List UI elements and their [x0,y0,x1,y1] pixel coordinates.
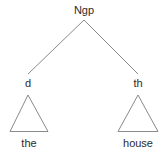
branch-root-to-right [84,20,138,74]
node-label-left-determiner: d [25,77,31,89]
node-label-right-head: th [133,77,142,89]
syntax-tree-figure: Ngp d th the house [0,0,166,159]
leaf-label-the: the [21,137,36,149]
triangle-left-the [10,95,48,132]
branch-root-to-left [28,20,84,74]
triangle-right-house [118,95,158,132]
leaf-label-house: house [123,137,153,149]
node-label-root: Ngp [74,4,94,16]
